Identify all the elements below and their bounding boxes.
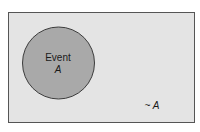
event-label: Event [45, 52, 71, 63]
venn-diagram: Event A ~ A [0, 0, 200, 132]
event-a-circle [23, 27, 95, 99]
event-variable-label: A [54, 64, 62, 75]
complement-label: ~ A [145, 100, 160, 111]
